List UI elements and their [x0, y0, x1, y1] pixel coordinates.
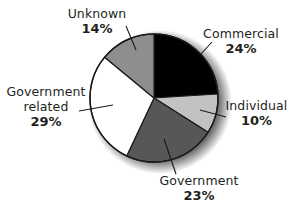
label-unknown-pct: 14%: [62, 21, 132, 36]
label-individual-pct: 10%: [224, 113, 289, 128]
label-commercial: Commercial 24%: [196, 26, 286, 56]
label-government: Government 23%: [154, 173, 244, 202]
label-government-related-name-line1: Government: [2, 84, 90, 99]
label-unknown: Unknown 14%: [62, 6, 132, 36]
label-individual-name: Individual: [224, 98, 289, 113]
label-government-pct: 23%: [154, 188, 244, 202]
label-government-name: Government: [154, 173, 244, 188]
label-commercial-name: Commercial: [196, 26, 286, 41]
label-government-related-name-line2: related: [2, 99, 90, 114]
label-commercial-pct: 24%: [196, 41, 286, 56]
label-government-related-pct: 29%: [2, 114, 90, 129]
label-individual: Individual 10%: [224, 98, 289, 128]
label-unknown-name: Unknown: [62, 6, 132, 21]
label-government-related: Government related 29%: [2, 84, 90, 129]
